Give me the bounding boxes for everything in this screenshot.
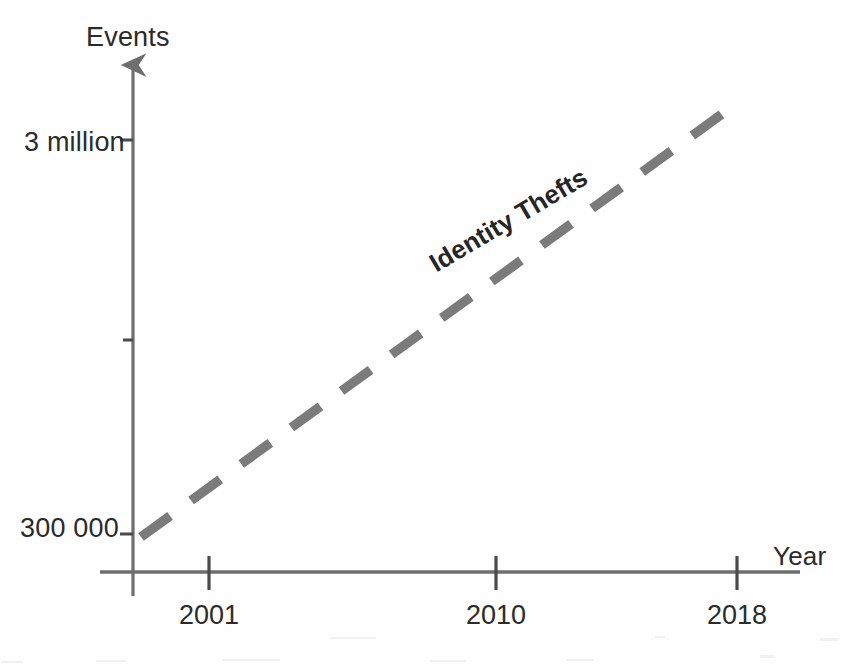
x-tick-label-2018: 2018 — [707, 600, 767, 631]
x-tick-label-2010: 2010 — [466, 600, 526, 631]
x-axis — [100, 556, 800, 590]
y-axis-title: Events — [86, 22, 170, 53]
x-tick-label-2001: 2001 — [179, 600, 239, 631]
y-tick-label-top: 3 million — [24, 127, 125, 158]
chart-canvas — [0, 0, 849, 669]
trend-line-dashed — [141, 103, 737, 537]
x-axis-title: Year — [773, 541, 826, 572]
chart-figure: Events Year 3 million 300 000 2001 2010 … — [0, 0, 849, 669]
series-identity-thefts — [141, 103, 737, 537]
y-tick-label-bottom: 300 000 — [20, 513, 119, 544]
